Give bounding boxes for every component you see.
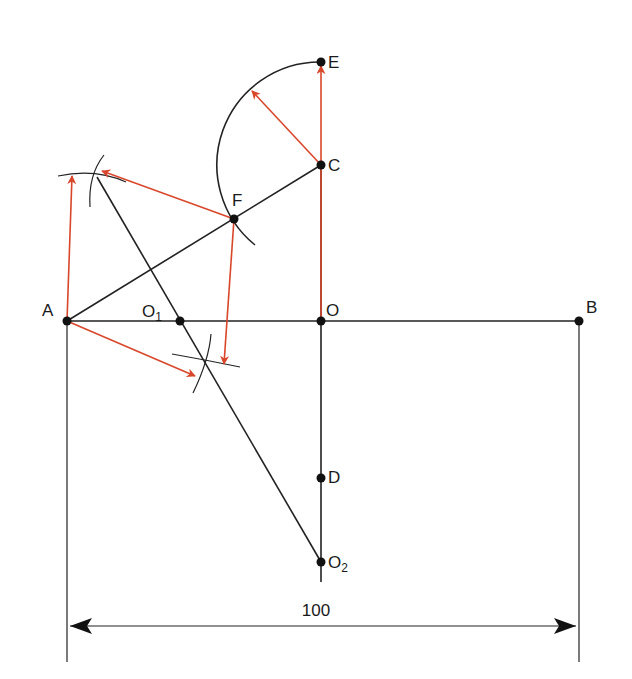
point-c — [317, 161, 326, 170]
dimension-value: 100 — [302, 601, 330, 620]
label-d: D — [328, 468, 340, 487]
point-o — [317, 317, 326, 326]
label-o2: O2 — [328, 553, 348, 575]
arrow-f-to-bottom — [224, 219, 234, 364]
oval-construction-diagram: 100 A O1 O B C E F D O2 — [0, 0, 632, 679]
point-a — [63, 317, 72, 326]
label-f: F — [232, 191, 242, 210]
arrow-c-to-arc — [252, 91, 321, 165]
arc-top-vertical — [90, 155, 104, 207]
point-o1 — [176, 317, 185, 326]
point-d — [317, 474, 326, 483]
point-e — [317, 58, 326, 67]
arrow-a-to-bottom — [67, 321, 195, 376]
bisector-line — [97, 177, 321, 562]
label-o1: O1 — [142, 302, 162, 324]
label-e: E — [328, 53, 339, 72]
label-o: O — [326, 301, 339, 320]
label-a: A — [42, 301, 54, 320]
label-c: C — [328, 156, 340, 175]
point-o2 — [317, 558, 326, 567]
point-b — [575, 317, 584, 326]
label-b: B — [586, 298, 597, 317]
arc-bottom-vertical — [193, 334, 211, 393]
line-ac — [67, 165, 321, 321]
arrow-f-to-top — [102, 171, 234, 219]
arrow-a-to-top — [67, 176, 72, 321]
point-f — [230, 215, 239, 224]
